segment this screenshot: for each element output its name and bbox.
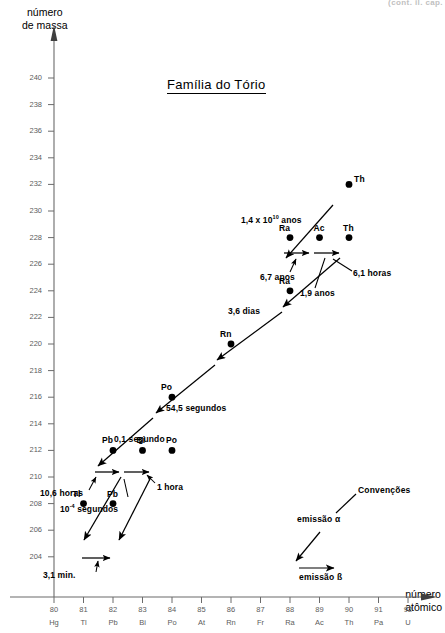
thorium-decay-series-chart: (cont. il. cap. número de massa número a… [0, 0, 445, 633]
x-element-symbol-Tl: Tl [71, 618, 97, 627]
nuclide-symbol-Po-216: Po [161, 382, 172, 392]
half-life-tl208: 3,1 min. [43, 570, 75, 580]
nuclide-symbol-Po-212: Po [166, 435, 177, 445]
annotation-leader-lines [89, 258, 352, 572]
x-element-symbol-Th: Th [336, 618, 362, 627]
leader-ra228 [89, 477, 96, 490]
x-element-symbol-Hg: Hg [41, 618, 67, 627]
x-element-symbol-Fr: Fr [248, 618, 274, 627]
x-element-symbol-Pb: Pb [100, 618, 126, 627]
x-tick-label-89: 89 [307, 605, 333, 614]
nuclide-symbol-Pb-212: Pb [102, 435, 113, 445]
data-point-Th-232 [346, 181, 353, 188]
half-life-th232: 1,4 x 1010 anos [241, 214, 302, 225]
data-point-Ac-228 [316, 234, 323, 241]
y-tick-label-234: 234 [20, 153, 42, 162]
y-tick-label-210: 210 [20, 472, 42, 481]
y-tick-label-212: 212 [20, 445, 42, 454]
half-life-bi212: 10-4 segundos [60, 503, 118, 514]
y-tick-label-206: 206 [20, 525, 42, 534]
x-tick-label-91: 91 [366, 605, 392, 614]
x-tick-label-90: 90 [336, 605, 362, 614]
x-tick-marks [54, 597, 408, 603]
x-tick-label-81: 81 [71, 605, 97, 614]
data-point-Rn-220 [228, 341, 235, 348]
y-tick-label-214: 214 [20, 419, 42, 428]
x-axis-arrowhead [421, 594, 437, 601]
half-life-ra224: 3,6 dias [228, 306, 260, 316]
y-tick-label-238: 238 [20, 100, 42, 109]
leader-6-7-anos [290, 259, 296, 272]
legend-alpha-label: emissão α [297, 514, 340, 524]
legend-alpha-arrow [296, 532, 320, 561]
x-tick-label-84: 84 [159, 605, 185, 614]
half-life-pb212: 10,6 horas [40, 488, 83, 498]
y-tick-label-216: 216 [20, 392, 42, 401]
x-tick-label-85: 85 [189, 605, 215, 614]
y-axis-arrowhead [51, 25, 58, 41]
axis-lines [10, 25, 437, 600]
x-element-symbol-Pa: Pa [366, 618, 392, 627]
x-tick-label-83: 83 [130, 605, 156, 614]
half-life-po212: 1 hora [157, 482, 183, 492]
legend-title-leader [336, 494, 356, 513]
y-tick-label-240: 240 [20, 73, 42, 82]
x-element-symbol-Po: Po [159, 618, 185, 627]
half-life-th228: 6,1 horas [353, 268, 391, 278]
y-tick-label-208: 208 [20, 499, 42, 508]
half-life-ra228: 6,7 anos [260, 272, 295, 282]
data-point-Th-228 [346, 234, 353, 241]
x-tick-label-87: 87 [248, 605, 274, 614]
y-tick-label-224: 224 [20, 286, 42, 295]
half-life-rn220: 54,5 segundos [166, 403, 226, 413]
leader-10-4-seg [124, 479, 128, 497]
x-tick-label-92: 92 [395, 605, 421, 614]
x-tick-label-82: 82 [100, 605, 126, 614]
plot-canvas [0, 0, 445, 633]
y-tick-label-232: 232 [20, 179, 42, 188]
x-tick-label-88: 88 [277, 605, 303, 614]
half-life-po216: 0,1 segundo [114, 434, 165, 444]
x-tick-label-80: 80 [41, 605, 67, 614]
y-tick-label-204: 204 [20, 552, 42, 561]
decay-arrow-th232-ra228 [286, 205, 333, 258]
y-tick-label-230: 230 [20, 206, 42, 215]
nuclide-symbol-Th-228: Th [343, 223, 354, 233]
data-point-Po-216 [169, 394, 176, 401]
y-tick-label-222: 222 [20, 312, 42, 321]
data-point-Ra-228 [287, 234, 294, 241]
nuclide-symbol-Th-232: Th [354, 174, 365, 184]
y-tick-label-226: 226 [20, 259, 42, 268]
half-life-ac228: 1,9 anos [300, 288, 335, 298]
x-element-symbol-Ac: Ac [307, 618, 333, 627]
y-tick-label-218: 218 [20, 366, 42, 375]
data-point-Pb-212 [110, 447, 117, 454]
x-element-symbol-Ra: Ra [277, 618, 303, 627]
decay-arrow-po212-pb208 [119, 477, 151, 540]
x-tick-label-86: 86 [218, 605, 244, 614]
decay-arrow-th228-ra224 [283, 258, 340, 307]
data-point-Ra-224 [287, 287, 294, 294]
nuclide-symbol-Pb-208: Pb [107, 489, 118, 499]
data-point-Bi-212 [139, 447, 146, 454]
y-tick-label-220: 220 [20, 339, 42, 348]
y-tick-label-228: 228 [20, 233, 42, 242]
leader-3-1-min [96, 561, 98, 572]
x-element-symbol-U: U [395, 618, 421, 627]
data-point-Po-212 [169, 447, 176, 454]
y-tick-label-236: 236 [20, 126, 42, 135]
nuclide-symbol-Ac-228: Ac [314, 223, 325, 233]
legend-title: Convenções [358, 485, 411, 495]
x-element-symbol-At: At [189, 618, 215, 627]
decay-arrows [82, 205, 340, 558]
legend-arrows [296, 494, 356, 568]
leader-6-1-horas [333, 259, 352, 271]
legend-beta-label: emissão ß [299, 572, 342, 582]
x-element-symbol-Rn: Rn [218, 618, 244, 627]
nuclide-symbol-Rn-220: Rn [220, 329, 232, 339]
x-element-symbol-Bi: Bi [130, 618, 156, 627]
y-tick-marks [48, 78, 54, 557]
